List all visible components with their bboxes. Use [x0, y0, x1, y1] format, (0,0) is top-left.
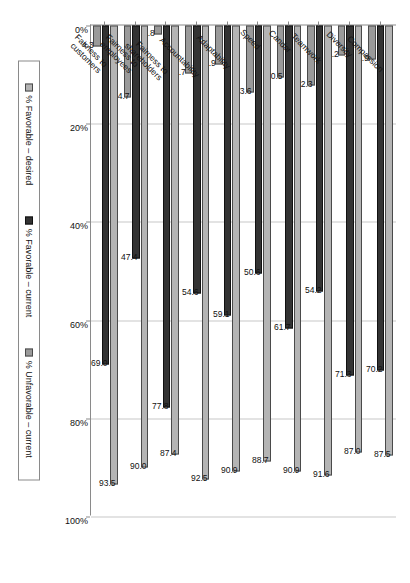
- bar: [285, 25, 293, 328]
- chart-legend: % Favorable – desired% Favorable – curre…: [18, 60, 40, 480]
- bar: [355, 25, 363, 452]
- bar: [171, 25, 179, 454]
- bar: [154, 25, 162, 34]
- category-tick-mark: [104, 21, 105, 25]
- bar-value-label: 77.8: [152, 400, 169, 410]
- legend-label: % Favorable – current: [24, 228, 34, 317]
- bar-chart: 87.570.26.987.071.36.291.654.212.390.961…: [0, 0, 410, 583]
- bar-value-label: 87.5: [374, 448, 391, 458]
- value-tick-text: 100%: [65, 515, 88, 525]
- bar-value-label: 93.5: [99, 477, 116, 487]
- value-tick-text: 20%: [70, 122, 88, 132]
- gridline: [91, 516, 396, 517]
- bar-value-label: 92.5: [191, 472, 208, 482]
- legend-item[interactable]: % Unfavorable – current: [24, 348, 34, 457]
- bar-value-label: 87.4: [160, 447, 177, 457]
- category-tick-mark: [166, 21, 167, 25]
- category-tick-mark: [319, 21, 320, 25]
- value-tick-label: 60%: [78, 319, 88, 337]
- legend-swatch-icon: [25, 83, 33, 91]
- bar-value-label: 50.6: [244, 266, 261, 276]
- bar-value-label: 88.7: [252, 454, 269, 464]
- value-tick-label: 80%: [78, 417, 88, 435]
- category-tick-mark: [257, 21, 258, 25]
- bar-value-label: 91.6: [313, 468, 330, 478]
- value-tick-text: 0%: [75, 24, 88, 34]
- legend-swatch-icon: [25, 216, 33, 224]
- legend-item[interactable]: % Favorable – current: [24, 216, 34, 317]
- legend-item[interactable]: % Favorable – desired: [24, 83, 34, 185]
- value-tick-label: 40%: [78, 220, 88, 238]
- plot-area: 87.570.26.987.071.36.291.654.212.390.961…: [90, 24, 396, 515]
- bar: [324, 25, 332, 475]
- bar: [163, 25, 171, 407]
- category-tick-mark: [135, 21, 136, 25]
- bar-value-label: 71.3: [335, 368, 352, 378]
- bar-value-label: 70.2: [366, 363, 383, 373]
- category-tick-mark: [380, 21, 381, 25]
- category-tick-mark: [349, 21, 350, 25]
- bar: [385, 25, 393, 455]
- bar-value-label: 59.1: [213, 308, 230, 318]
- category-tick-mark: [227, 21, 228, 25]
- bar-value-label: 54.6: [182, 286, 199, 296]
- bar: [263, 25, 271, 461]
- bar: [110, 25, 118, 484]
- bar: [255, 25, 263, 273]
- plot-outer: 87.570.26.987.071.36.291.654.212.390.961…: [0, 0, 410, 583]
- bar-value-label: 69.0: [91, 357, 108, 367]
- bar-value-label: 90.9: [283, 464, 300, 474]
- bar: [377, 25, 385, 370]
- category-tick-mark: [288, 21, 289, 25]
- legend-label: % Unfavorable – current: [24, 360, 34, 457]
- gridline: [91, 418, 396, 419]
- value-tick-text: 80%: [70, 417, 88, 427]
- bar: [202, 25, 210, 479]
- value-tick-label: 100%: [78, 515, 88, 538]
- category-tick-mark: [196, 21, 197, 25]
- bar: [232, 25, 240, 471]
- legend-swatch-icon: [25, 348, 33, 356]
- chart-rotation-wrapper: 87.570.26.987.071.36.291.654.212.390.961…: [0, 0, 410, 583]
- bar-value-label: 87.0: [344, 445, 361, 455]
- bar: [294, 25, 302, 471]
- bar-value-label: 54.2: [305, 284, 322, 294]
- bar-value-label: 47.4: [121, 251, 138, 261]
- value-tick-text: 60%: [70, 319, 88, 329]
- bar-value-label: 90.0: [130, 460, 147, 470]
- bar: [102, 25, 110, 364]
- legend-label: % Favorable – desired: [24, 95, 34, 185]
- bar-value-label: 61.7: [274, 321, 291, 331]
- value-tick-text: 40%: [70, 220, 88, 230]
- value-tick-label: 20%: [78, 122, 88, 140]
- bar: [346, 25, 354, 375]
- bar-value-label: 90.9: [221, 464, 238, 474]
- bar: [141, 25, 149, 467]
